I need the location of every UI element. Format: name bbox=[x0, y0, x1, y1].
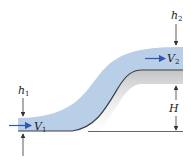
flow-diagram: h1 h2 V1 V2 H bbox=[0, 0, 191, 165]
V1-label-base: V bbox=[34, 120, 42, 133]
V2-label-base: V bbox=[167, 52, 175, 65]
h2-label-sub: 2 bbox=[178, 15, 182, 23]
H-label: H bbox=[168, 103, 180, 114]
V1-label-sub: 1 bbox=[42, 126, 46, 134]
V2-label-sub: 2 bbox=[175, 58, 179, 66]
V1-label: V1 bbox=[34, 121, 46, 134]
diagram-canvas bbox=[0, 0, 191, 165]
V2-label: V2 bbox=[167, 53, 179, 66]
h1-label: h1 bbox=[18, 85, 30, 98]
h1-label-sub: 1 bbox=[25, 90, 29, 98]
h2-label: h2 bbox=[171, 10, 183, 23]
H-label-base: H bbox=[169, 102, 179, 115]
